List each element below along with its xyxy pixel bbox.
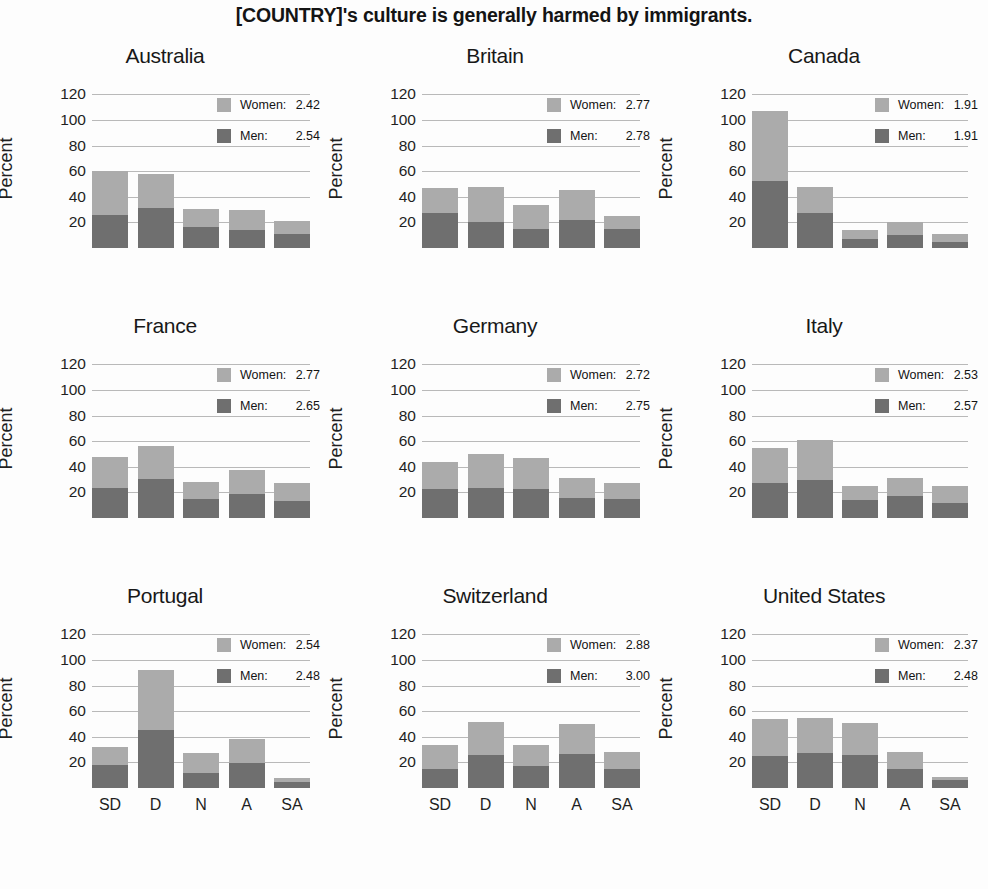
bar-d[interactable] — [138, 358, 174, 518]
bar-d[interactable] — [797, 358, 833, 518]
bar-sd[interactable] — [422, 88, 458, 248]
bar-segment-women[interactable] — [604, 216, 640, 229]
bar-segment-men[interactable] — [513, 766, 549, 788]
bar-segment-men[interactable] — [887, 769, 923, 788]
bar-segment-women[interactable] — [422, 188, 458, 214]
bar-segment-men[interactable] — [842, 500, 878, 518]
bar-segment-men[interactable] — [604, 769, 640, 788]
bar-d[interactable] — [797, 628, 833, 788]
bar-segment-women[interactable] — [559, 190, 595, 221]
bar-segment-men[interactable] — [842, 239, 878, 248]
bar-segment-men[interactable] — [274, 782, 310, 788]
bar-segment-men[interactable] — [183, 499, 219, 518]
bar-segment-women[interactable] — [932, 234, 968, 242]
bar-segment-women[interactable] — [274, 483, 310, 501]
bar-segment-women[interactable] — [229, 470, 265, 494]
bar-n[interactable] — [183, 358, 219, 518]
bar-segment-men[interactable] — [274, 501, 310, 518]
bar-d[interactable] — [468, 88, 504, 248]
bar-segment-women[interactable] — [92, 457, 128, 488]
bar-segment-women[interactable] — [842, 230, 878, 239]
bar-segment-men[interactable] — [229, 494, 265, 518]
bar-segment-women[interactable] — [752, 448, 788, 484]
bar-segment-men[interactable] — [92, 488, 128, 518]
bar-segment-women[interactable] — [559, 724, 595, 754]
bar-segment-men[interactable] — [513, 489, 549, 518]
bar-sd[interactable] — [752, 358, 788, 518]
bar-segment-women[interactable] — [138, 174, 174, 209]
bar-segment-women[interactable] — [842, 486, 878, 500]
bar-segment-men[interactable] — [138, 479, 174, 518]
bar-segment-men[interactable] — [932, 780, 968, 788]
bar-segment-women[interactable] — [183, 482, 219, 499]
bar-n[interactable] — [513, 358, 549, 518]
bar-segment-women[interactable] — [422, 462, 458, 489]
bar-segment-women[interactable] — [274, 221, 310, 234]
bar-segment-men[interactable] — [887, 235, 923, 248]
bar-segment-men[interactable] — [513, 229, 549, 248]
bar-segment-men[interactable] — [752, 181, 788, 248]
bar-sd[interactable] — [752, 628, 788, 788]
bar-segment-women[interactable] — [229, 210, 265, 230]
bar-segment-women[interactable] — [183, 753, 219, 772]
bar-n[interactable] — [513, 628, 549, 788]
bar-segment-men[interactable] — [92, 765, 128, 788]
bar-segment-women[interactable] — [887, 752, 923, 769]
bar-segment-women[interactable] — [559, 478, 595, 498]
bar-n[interactable] — [183, 628, 219, 788]
bar-segment-women[interactable] — [229, 739, 265, 763]
bar-sd[interactable] — [92, 628, 128, 788]
bar-segment-men[interactable] — [842, 755, 878, 788]
bar-segment-women[interactable] — [887, 478, 923, 495]
bar-segment-men[interactable] — [752, 483, 788, 518]
bar-segment-women[interactable] — [468, 187, 504, 222]
bar-segment-men[interactable] — [422, 213, 458, 248]
bar-sd[interactable] — [422, 358, 458, 518]
bar-segment-men[interactable] — [138, 730, 174, 788]
bar-segment-women[interactable] — [513, 745, 549, 767]
bar-segment-women[interactable] — [604, 752, 640, 769]
bar-segment-men[interactable] — [229, 763, 265, 788]
bar-n[interactable] — [842, 358, 878, 518]
bar-n[interactable] — [513, 88, 549, 248]
bar-segment-women[interactable] — [842, 723, 878, 755]
bar-segment-women[interactable] — [797, 718, 833, 753]
bar-d[interactable] — [468, 358, 504, 518]
bar-segment-men[interactable] — [887, 496, 923, 518]
bar-segment-men[interactable] — [422, 489, 458, 518]
bar-segment-women[interactable] — [932, 486, 968, 503]
bar-segment-women[interactable] — [468, 722, 504, 755]
bar-segment-men[interactable] — [422, 769, 458, 788]
bar-d[interactable] — [138, 628, 174, 788]
bar-sd[interactable] — [92, 358, 128, 518]
bar-segment-women[interactable] — [752, 111, 788, 181]
bar-segment-women[interactable] — [797, 440, 833, 480]
bar-d[interactable] — [468, 628, 504, 788]
bar-segment-women[interactable] — [92, 747, 128, 765]
bar-segment-men[interactable] — [797, 753, 833, 788]
bar-segment-women[interactable] — [183, 209, 219, 227]
bar-d[interactable] — [797, 88, 833, 248]
bar-segment-men[interactable] — [559, 754, 595, 788]
bar-segment-women[interactable] — [422, 745, 458, 769]
bar-segment-women[interactable] — [513, 458, 549, 488]
bar-segment-men[interactable] — [138, 208, 174, 248]
bar-segment-men[interactable] — [229, 230, 265, 248]
bar-sd[interactable] — [92, 88, 128, 248]
bar-segment-men[interactable] — [274, 234, 310, 248]
bar-segment-men[interactable] — [932, 242, 968, 248]
bar-segment-women[interactable] — [138, 670, 174, 730]
bar-segment-men[interactable] — [797, 213, 833, 248]
bar-segment-women[interactable] — [468, 454, 504, 488]
bar-segment-men[interactable] — [468, 488, 504, 518]
bar-d[interactable] — [138, 88, 174, 248]
bar-segment-women[interactable] — [604, 483, 640, 499]
bar-segment-men[interactable] — [92, 215, 128, 248]
bar-sd[interactable] — [752, 88, 788, 248]
bar-segment-men[interactable] — [797, 480, 833, 518]
bar-sd[interactable] — [422, 628, 458, 788]
bar-segment-men[interactable] — [559, 498, 595, 518]
bar-segment-women[interactable] — [752, 719, 788, 756]
bar-segment-men[interactable] — [183, 227, 219, 248]
bar-segment-men[interactable] — [559, 220, 595, 248]
